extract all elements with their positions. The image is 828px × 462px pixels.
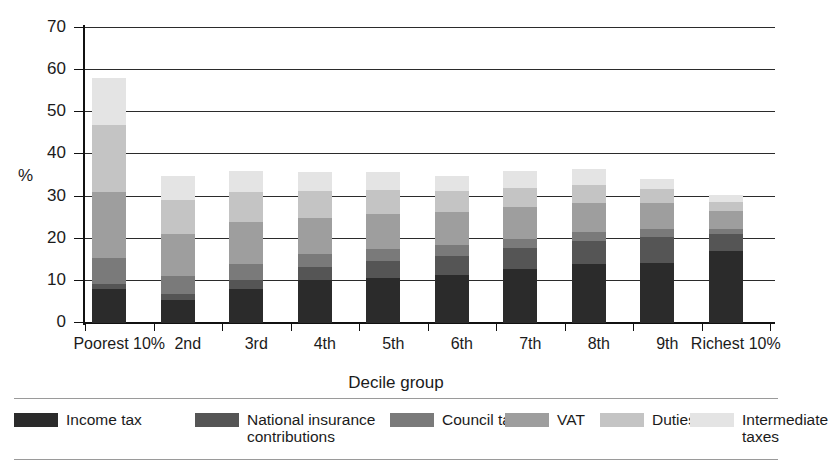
legend-label: Intermediate taxes xyxy=(742,411,828,445)
y-tick-label-40: 40 xyxy=(47,144,66,161)
legend-swatch-icon xyxy=(14,413,58,427)
x-tick-mark-3 xyxy=(291,323,292,331)
legend-swatch-icon xyxy=(390,413,434,427)
bar-segment xyxy=(298,254,332,267)
bar-segment xyxy=(298,172,332,191)
bar-segment xyxy=(503,239,537,249)
legend-item-5[interactable]: Duties xyxy=(600,411,696,428)
bar-segment xyxy=(92,78,126,125)
y-tick-label-60: 60 xyxy=(47,60,66,77)
bar-segment xyxy=(298,280,332,323)
bar-segment xyxy=(435,245,469,256)
chart-legend: Income taxNational insurance contributio… xyxy=(0,398,792,462)
y-tick-mark-50 xyxy=(74,111,84,112)
bar-segment xyxy=(229,222,263,264)
bar-segment xyxy=(640,179,674,190)
bar-3[interactable] xyxy=(229,171,263,323)
bar-segment xyxy=(640,189,674,203)
y-tick-label-10: 10 xyxy=(47,271,66,288)
x-tick-mark-0 xyxy=(85,323,86,331)
x-axis-title: Decile group xyxy=(0,373,792,393)
x-tick-mark-2 xyxy=(222,323,223,331)
bar-segment xyxy=(709,211,743,228)
bar-segment xyxy=(161,300,195,323)
legend-swatch-icon xyxy=(195,413,239,427)
y-axis-title: % xyxy=(18,166,33,186)
y-tick-label-50: 50 xyxy=(47,102,66,119)
bar-1[interactable] xyxy=(92,78,126,323)
y-tick-label-30: 30 xyxy=(47,187,66,204)
bar-segment xyxy=(366,214,400,249)
x-tick-mark-1 xyxy=(154,323,155,331)
bar-segment xyxy=(709,202,743,212)
bar-segment xyxy=(435,191,469,212)
x-tick-mark-5 xyxy=(428,323,429,331)
y-tick-mark-60 xyxy=(74,69,84,70)
bar-segment xyxy=(92,258,126,284)
bar-4[interactable] xyxy=(298,172,332,323)
bar-segment xyxy=(503,269,537,323)
x-tick-mark-8 xyxy=(633,323,634,331)
legend-swatch-icon xyxy=(600,413,644,427)
legend-label: Income tax xyxy=(66,411,142,428)
bar-segment xyxy=(229,171,263,192)
legend-item-3[interactable]: Council tax xyxy=(390,411,519,428)
bar-segment xyxy=(229,192,263,223)
bar-segment xyxy=(572,203,606,233)
bar-segment xyxy=(366,278,400,323)
x-tick-mark-10 xyxy=(770,323,771,331)
legend-item-1[interactable]: Income tax xyxy=(14,411,142,428)
bar-segment xyxy=(503,188,537,207)
bar-segment xyxy=(435,176,469,192)
y-tick-mark-20 xyxy=(74,238,84,239)
bar-6[interactable] xyxy=(435,176,469,323)
x-tick-mark-4 xyxy=(359,323,360,331)
y-tick-mark-70 xyxy=(74,27,84,28)
bar-8[interactable] xyxy=(572,169,606,323)
bar-segment xyxy=(503,171,537,187)
bar-segment xyxy=(503,248,537,269)
bar-segment xyxy=(640,237,674,263)
legend-item-2[interactable]: National insurance contributions xyxy=(195,411,375,445)
bar-9[interactable] xyxy=(640,179,674,323)
y-tick-label-20: 20 xyxy=(47,229,66,246)
bar-segment xyxy=(572,241,606,264)
bar-segment xyxy=(366,172,400,190)
bar-7[interactable] xyxy=(503,171,537,323)
x-tick-mark-6 xyxy=(496,323,497,331)
bar-segment xyxy=(298,218,332,255)
bar-segment xyxy=(229,289,263,323)
bar-segment xyxy=(366,261,400,279)
bar-segment xyxy=(640,229,674,237)
bar-segment xyxy=(92,192,126,257)
bar-10[interactable] xyxy=(709,195,743,323)
bar-segment xyxy=(298,191,332,218)
bar-segment xyxy=(435,275,469,323)
bar-segment xyxy=(229,280,263,290)
legend-swatch-icon xyxy=(505,413,549,427)
y-tick-label-70: 70 xyxy=(47,18,66,35)
legend-item-6[interactable]: Intermediate taxes xyxy=(690,411,828,445)
legend-label: VAT xyxy=(557,411,585,428)
bar-segment xyxy=(435,256,469,275)
bar-segment xyxy=(92,125,126,192)
y-tick-mark-10 xyxy=(74,280,84,281)
legend-rule-top xyxy=(14,398,778,399)
bar-segment xyxy=(503,207,537,239)
x-tick-mark-7 xyxy=(565,323,566,331)
bar-segment xyxy=(161,200,195,235)
legend-item-4[interactable]: VAT xyxy=(505,411,585,428)
legend-label: National insurance contributions xyxy=(247,411,375,445)
legend-rule-bottom xyxy=(14,459,778,460)
x-tick-mark-9 xyxy=(702,323,703,331)
plot-area xyxy=(83,27,773,323)
bar-5[interactable] xyxy=(366,172,400,323)
bar-segment xyxy=(709,234,743,252)
bar-segment xyxy=(572,169,606,185)
y-tick-mark-0 xyxy=(74,322,84,323)
y-tick-mark-30 xyxy=(74,196,84,197)
bar-segment xyxy=(366,190,400,214)
bar-segment xyxy=(572,185,606,203)
bar-2[interactable] xyxy=(161,176,195,323)
